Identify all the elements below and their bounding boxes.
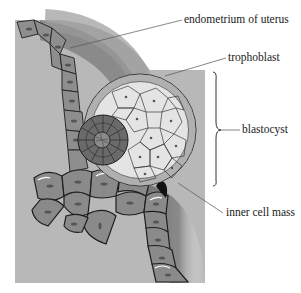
blastocyst-brace [213,72,221,186]
label-endometrium: endometrium of uterus [184,14,289,26]
blastocyst-implantation-diagram [0,0,301,293]
label-blastocyst: blastocyst [242,124,288,136]
label-inner-cell-mass: inner cell mass [226,207,295,219]
inner-cell-mass [78,115,128,165]
label-trophoblast: trophoblast [228,52,280,64]
